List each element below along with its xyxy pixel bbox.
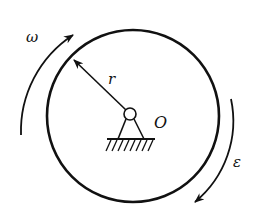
center-label: O [154, 113, 167, 132]
epsilon-label: ε [233, 153, 241, 171]
pivot-pin [124, 108, 136, 120]
radius-arrow [74, 60, 126, 110]
ground-hatching [106, 140, 153, 151]
support-right-leg [134, 119, 144, 139]
support-left-leg [118, 119, 126, 139]
omega-label: ω [26, 28, 38, 46]
epsilon-arrow [195, 99, 233, 202]
radius-label: r [108, 70, 116, 88]
rotating-disk-diagram: ω r O ε [0, 0, 254, 219]
